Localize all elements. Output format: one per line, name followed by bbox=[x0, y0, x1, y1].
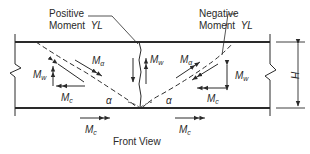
yield-line-diagram: H Mw Mα Mc α Mw α Mα Mw Mc Mc Mc bbox=[0, 0, 310, 154]
negative-yl: YL bbox=[241, 20, 253, 31]
left-moment-vectors bbox=[53, 58, 146, 118]
right-moment-vectors bbox=[175, 62, 227, 118]
alpha-label-right: α bbox=[166, 95, 172, 106]
positive-yl: YL bbox=[91, 20, 103, 31]
positive-moment-line2: Moment YL bbox=[49, 20, 103, 32]
malpha-label-right: Mα bbox=[180, 54, 193, 66]
positive-yield-line bbox=[139, 42, 141, 108]
negative-yield-line-left bbox=[36, 42, 138, 108]
negative-moment-label: Negative Moment YL bbox=[199, 8, 253, 32]
mc-label-bottom-left: Mc bbox=[85, 124, 97, 136]
mc-label-bottom-right: Mc bbox=[179, 124, 191, 136]
mc-label-right: Mc bbox=[207, 93, 219, 105]
mw-label-left: Mw bbox=[33, 69, 47, 81]
mw-label-center: Mw bbox=[150, 54, 164, 66]
mc-label-left: Mc bbox=[61, 92, 73, 104]
negative-moment-line2: Moment YL bbox=[199, 20, 253, 32]
negative-moment-line1: Negative bbox=[199, 8, 253, 20]
malpha-label-left: Mα bbox=[92, 55, 105, 67]
right-break-line bbox=[265, 34, 276, 116]
height-label: H bbox=[289, 71, 300, 79]
malpha-arrow-left-a bbox=[58, 64, 84, 82]
alpha-label-left: α bbox=[106, 95, 112, 106]
mw-label-right: Mw bbox=[235, 70, 249, 82]
front-view-caption: Front View bbox=[113, 136, 161, 148]
positive-moment-line1: Positive bbox=[49, 8, 103, 20]
positive-moment-label: Positive Moment YL bbox=[49, 8, 103, 32]
left-break-line bbox=[10, 34, 21, 116]
